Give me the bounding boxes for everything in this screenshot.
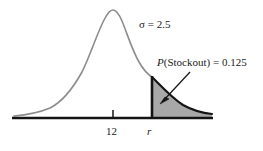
distribution-plot (0, 0, 263, 151)
probability-equals: = (210, 56, 222, 68)
probability-value: 0.125 (222, 56, 247, 68)
probability-function-symbol: P (157, 56, 164, 68)
stockout-probability-annotation: P(Stockout) = 0.125 (157, 57, 247, 68)
probability-argument: Stockout (167, 56, 206, 68)
callout-arrow-line (163, 72, 190, 101)
sigma-annotation: σ = 2.5 (139, 19, 170, 30)
x-tick-label-mean: 12 (106, 126, 117, 137)
x-tick-label-reorder-point: r (147, 126, 151, 137)
bell-curve (14, 10, 152, 116)
normal-distribution-stockout-figure: σ = 2.5 P(Stockout) = 0.125 12 r (0, 0, 263, 151)
